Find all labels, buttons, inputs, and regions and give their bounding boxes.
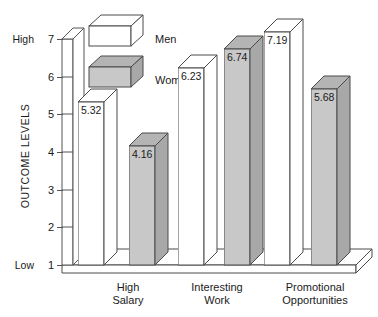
bar-value-women-interesting-work: 6.74 — [227, 52, 247, 63]
y-tick-mark-1 — [57, 265, 63, 266]
legend-swatch-men — [88, 14, 148, 48]
category-label-line-2: Work — [172, 294, 262, 307]
category-label-line-1: Interesting — [172, 281, 262, 294]
category-label-high-salary: High Salary — [88, 281, 168, 307]
bar-women-interesting-work — [224, 0, 284, 317]
bar-value-men-high-salary: 5.32 — [81, 105, 101, 116]
category-label-line-2: Opportunities — [262, 294, 368, 307]
legend-swatch-women — [88, 55, 148, 89]
category-label-line-1: High — [88, 281, 168, 294]
y-tick-mark-5 — [57, 114, 63, 115]
category-label-line-2: Salary — [88, 294, 168, 307]
y-axis-low-label: Low — [0, 259, 34, 271]
y-axis-high-label: High — [0, 33, 34, 45]
bar-men-promotional-opportunities — [264, 0, 324, 317]
bar-men-interesting-work — [178, 0, 238, 317]
y-tick-label-7: 7 — [36, 33, 54, 45]
bar-value-men-interesting-work: 6.23 — [181, 71, 201, 82]
y-axis-interior-ticks — [0, 0, 378, 317]
y-tick-mark-6 — [57, 77, 63, 78]
y-tick-mark-7 — [57, 39, 63, 40]
y-tick-label-3: 3 — [36, 184, 54, 196]
bar-chart: OUTCOME LEVELS 7 6 5 4 3 2 1 High Low — [0, 0, 378, 317]
bar-value-women-high-salary: 4.16 — [132, 149, 152, 160]
legend-label-men: Men — [155, 33, 176, 45]
y-axis-title: OUTCOME LEVELS — [19, 91, 31, 221]
y-tick-mark-3 — [57, 190, 63, 191]
y-tick-label-4: 4 — [36, 146, 54, 158]
y-tick-label-5: 5 — [36, 108, 54, 120]
category-label-interesting-work: Interesting Work — [172, 281, 262, 307]
bar-value-men-promotional-opportunities: 7.19 — [267, 35, 287, 46]
y-tick-mark-2 — [57, 227, 63, 228]
category-label-line-1: Promotional — [262, 281, 368, 294]
y-tick-label-6: 6 — [36, 71, 54, 83]
y-tick-mark-4 — [57, 152, 63, 153]
y-axis-post — [0, 0, 378, 317]
chart-floor-3d — [0, 0, 378, 317]
y-tick-label-2: 2 — [36, 221, 54, 233]
bar-value-women-promotional-opportunities: 5.68 — [314, 92, 334, 103]
y-tick-label-1: 1 — [36, 259, 54, 271]
bar-women-promotional-opportunities — [311, 0, 371, 317]
category-label-promotional-opportunities: Promotional Opportunities — [262, 281, 368, 307]
